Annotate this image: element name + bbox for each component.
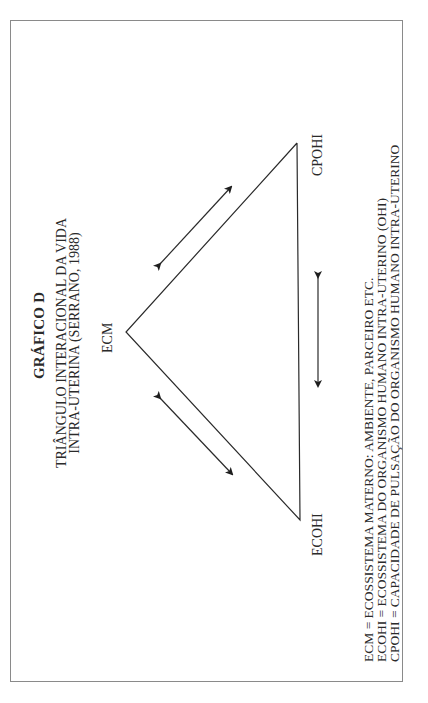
arrow-ecm-cpohi [160, 187, 231, 264]
arrow-ecm-ecohi [160, 398, 232, 474]
legend: ECM = ECOSSISTEMA MATERNO: AMBIENTE, PAR… [362, 145, 401, 662]
legend-item-cpohi: CPOHI = CAPACIDADE DE PULSAÇÃO DO ORGANI… [388, 145, 401, 662]
triangle-outline [126, 143, 300, 520]
